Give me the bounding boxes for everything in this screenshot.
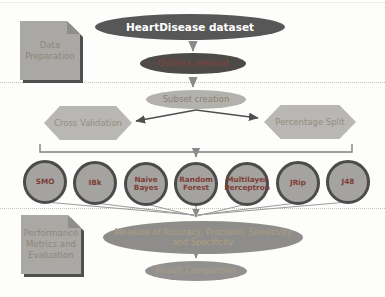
note-fold-corner-icon [68, 215, 81, 228]
node-measure-metrics: Measure of Accuracy, Precision, Sensitiv… [103, 221, 303, 254]
classifier-j48: J48 [326, 160, 370, 204]
heart-disease-workflow-diagram: Data Preparation HeartDisease dataset Ou… [0, 0, 385, 297]
node-cross-validation: Cross Validation [44, 106, 132, 140]
node-outliers-removal: Outliers removal [140, 53, 246, 74]
note-performance-metrics-label: Performance Metrics and Evaluation [21, 228, 81, 260]
note-fold-corner-icon [67, 21, 80, 34]
line-multilayer-to-measure [197, 204, 247, 216]
bracket-connector [40, 144, 352, 152]
note-data-preparation-label: Data Preparation [20, 40, 80, 61]
classifier-ibk: IBk [73, 161, 117, 205]
note-body: Performance Metrics and Evaluation [21, 215, 81, 274]
node-heartdisease-dataset: HeartDisease dataset [95, 14, 285, 40]
arrow-subset-to-cross-validation [136, 110, 196, 121]
note-performance-metrics: Performance Metrics and Evaluation [21, 215, 81, 274]
classifier-naive-bayes: Naive Bayes [124, 162, 168, 206]
note-data-preparation: Data Preparation [20, 21, 80, 80]
node-subset-creation: Subset creation [146, 90, 246, 109]
classifier-smo: SMO [23, 160, 67, 204]
node-result-comparison: Result Comparison [145, 261, 247, 281]
node-percentage-split: Percentage Split [264, 105, 356, 139]
section-divider-top [0, 2, 385, 3]
section-divider-bottom [0, 208, 385, 209]
classifier-random-forest: Random Forest [174, 162, 218, 206]
note-body: Data Preparation [20, 21, 80, 80]
classifier-jrip: JRip [276, 161, 320, 205]
arrow-subset-to-percentage-split [196, 110, 258, 118]
line-naivebayes-to-measure [146, 204, 195, 216]
classifier-multilayer-perceptron: Multilayer Perceptron [225, 162, 269, 206]
